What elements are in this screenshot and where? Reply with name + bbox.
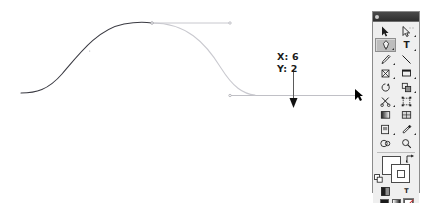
- free-transform-tool[interactable]: [396, 94, 417, 108]
- flyout-triangle-icon[interactable]: [392, 48, 394, 50]
- zoom-tool[interactable]: [396, 136, 417, 150]
- mode-row: T: [374, 184, 418, 198]
- letter-T-icon: T: [403, 41, 409, 50]
- scale-tool[interactable]: [396, 80, 417, 94]
- tool-row: [374, 136, 418, 150]
- flyout-triangle-icon[interactable]: [414, 49, 416, 51]
- readout-y: Y: 2: [277, 63, 299, 75]
- text-mode-button[interactable]: T: [396, 184, 417, 198]
- curve-preview-segment: [152, 23, 255, 95]
- screenshot-root: X: 6 Y: 2: [0, 0, 431, 203]
- tool-row: [374, 80, 418, 94]
- drag-direction-arrow: [290, 70, 298, 108]
- divider: [377, 152, 415, 153]
- close-icon[interactable]: [375, 15, 379, 19]
- color-button[interactable]: [380, 199, 389, 203]
- tool-row: T: [374, 38, 418, 52]
- paint-modes: [374, 199, 418, 203]
- pencil-tool[interactable]: [375, 52, 396, 66]
- tools-panel-body: T: [373, 22, 419, 203]
- color-mode-button[interactable]: [375, 184, 396, 198]
- fill-and-stroke-proxy[interactable]: [374, 154, 418, 184]
- mesh-tool[interactable]: [396, 108, 417, 122]
- illustrator-canvas[interactable]: [0, 0, 368, 203]
- coordinate-readout: X: 6 Y: 2: [277, 51, 299, 74]
- gradient-button[interactable]: [392, 199, 401, 203]
- selection-tool[interactable]: [375, 24, 396, 38]
- readout-x: X: 6: [277, 51, 299, 63]
- flyout-triangle-icon[interactable]: [393, 63, 395, 65]
- bottom-direction-handle[interactable]: [229, 94, 355, 96]
- tool-row: [374, 122, 418, 136]
- scissors-tool[interactable]: [375, 94, 396, 108]
- gradient-tool[interactable]: [375, 108, 396, 122]
- direct-selection-tool[interactable]: [396, 24, 417, 38]
- eyedropper-tool[interactable]: [396, 122, 417, 136]
- panel-grip-icon[interactable]: [409, 15, 416, 18]
- default-fill-stroke-icon[interactable]: [374, 174, 383, 183]
- flyout-triangle-icon[interactable]: [414, 35, 416, 37]
- pen-tool[interactable]: [375, 38, 396, 52]
- flyout-triangle-icon[interactable]: [393, 77, 395, 79]
- tool-row: [374, 52, 418, 66]
- symbol-sprayer-tool[interactable]: [375, 122, 396, 136]
- tool-row: [374, 24, 418, 38]
- rotate-tool[interactable]: [375, 80, 396, 94]
- none-button[interactable]: [404, 199, 413, 203]
- type-tool[interactable]: T: [396, 38, 417, 52]
- flyout-triangle-icon[interactable]: [414, 91, 416, 93]
- flyout-triangle-icon[interactable]: [393, 105, 395, 107]
- flyout-triangle-icon[interactable]: [414, 77, 416, 79]
- tool-row: [374, 66, 418, 80]
- blend-tool[interactable]: [375, 136, 396, 150]
- stroke-swatch[interactable]: [391, 164, 410, 183]
- rectangle-tool[interactable]: [396, 66, 417, 80]
- flyout-triangle-icon[interactable]: [393, 133, 395, 135]
- line-segment-tool[interactable]: [396, 52, 417, 66]
- curve-midpoint-marker: [89, 51, 90, 52]
- tools-panel[interactable]: T: [372, 11, 420, 193]
- swap-fill-stroke-icon[interactable]: [406, 154, 415, 163]
- tool-row: [374, 94, 418, 108]
- letter-T-icon: T: [404, 188, 408, 195]
- tool-row: [374, 108, 418, 122]
- flyout-triangle-icon[interactable]: [414, 133, 416, 135]
- anchor-point[interactable]: [151, 22, 154, 25]
- tools-panel-titlebar[interactable]: [373, 12, 419, 22]
- selection-cursor: [355, 89, 363, 101]
- paintbrush-tool[interactable]: [375, 66, 396, 80]
- curve-drawn-segment: [21, 22, 152, 93]
